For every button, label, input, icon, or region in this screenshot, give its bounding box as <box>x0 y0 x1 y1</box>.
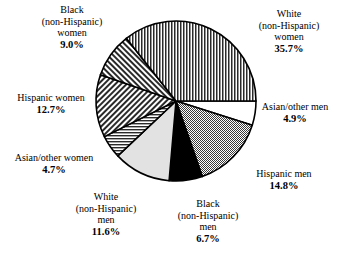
slice-label-percent: 12.7% <box>37 104 66 115</box>
slice-label-line1: Hispanic men <box>256 168 311 179</box>
pie-slices <box>96 21 256 181</box>
slice-label-asian-other-women: Asian/other women 4.7% <box>2 152 106 175</box>
slice-label-line2: (non-Hispanic) <box>76 203 137 214</box>
slice-label-line3: men <box>97 214 114 225</box>
slice-label-line1: White <box>94 191 118 202</box>
slice-label-percent: 35.7% <box>275 43 304 54</box>
slice-label-line1: White <box>277 8 301 19</box>
slice-label-percent: 6.7% <box>196 233 220 244</box>
slice-label-percent: 4.7% <box>42 164 66 175</box>
slice-label-line1: Black <box>60 4 83 15</box>
slice-label-hispanic-women: Hispanic women 12.7% <box>1 92 101 115</box>
slice-label-line3: women <box>274 31 303 42</box>
slice-label-white-women: White (non-Hispanic) women 35.7% <box>237 8 341 54</box>
slice-label-black-men: Black (non-Hispanic) men 6.7% <box>160 198 256 244</box>
slice-label-white-men: White (non-Hispanic) men 11.6% <box>58 191 154 237</box>
slice-label-line1: Asian/other women <box>15 152 94 163</box>
slice-label-line1: Asian/other men <box>262 101 328 112</box>
slice-label-line1: Hispanic women <box>17 92 85 103</box>
slice-label-line3: men <box>199 221 216 232</box>
slice-label-line3: women <box>57 27 86 38</box>
slice-label-line2: (non-Hispanic) <box>42 16 103 27</box>
slice-label-line1: Black <box>196 198 219 209</box>
slice-label-line2: (non-Hispanic) <box>178 210 239 221</box>
slice-label-percent: 14.8% <box>270 180 299 191</box>
slice-label-asian-other-men: Asian/other men 4.9% <box>247 101 343 124</box>
slice-label-percent: 4.9% <box>283 113 307 124</box>
slice-label-hispanic-men: Hispanic men 14.8% <box>238 168 330 191</box>
slice-label-line2: (non-Hispanic) <box>259 20 320 31</box>
slice-label-black-women: Black (non-Hispanic) women 9.0% <box>24 4 120 50</box>
slice-label-percent: 11.6% <box>92 226 120 237</box>
pie-chart-figure: Black (non-Hispanic) women 9.0% White (n… <box>0 0 350 259</box>
slice-label-percent: 9.0% <box>60 39 84 50</box>
